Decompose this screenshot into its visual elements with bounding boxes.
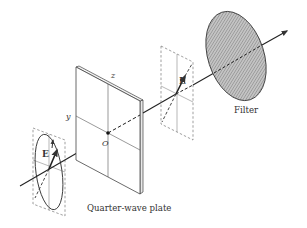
plate-side-edge xyxy=(140,100,143,194)
filter-disk xyxy=(195,4,277,109)
input-field-label: E xyxy=(42,149,49,159)
rotation-direction-icon xyxy=(52,140,53,148)
filter: Filter xyxy=(195,4,277,115)
output-field-label: E xyxy=(179,76,186,86)
beam-axis-segment-to-filter xyxy=(193,73,214,85)
quarter-wave-plate: z y O Quarter-wave plate xyxy=(65,66,171,213)
filter-caption: Filter xyxy=(234,105,259,115)
beam-axis-exit-arrow xyxy=(262,31,287,45)
input-polarization-frame: E xyxy=(31,128,67,216)
plate-caption: Quarter-wave plate xyxy=(87,203,171,213)
optics-diagram: E z y O Quarter-wave plate E xyxy=(0,0,307,228)
input-field-vector-arrow xyxy=(49,150,57,169)
axis-z-label: z xyxy=(110,71,116,80)
origin-label: O xyxy=(102,139,109,148)
output-field-vector-extension xyxy=(185,64,192,76)
axis-y-label: y xyxy=(65,112,71,121)
